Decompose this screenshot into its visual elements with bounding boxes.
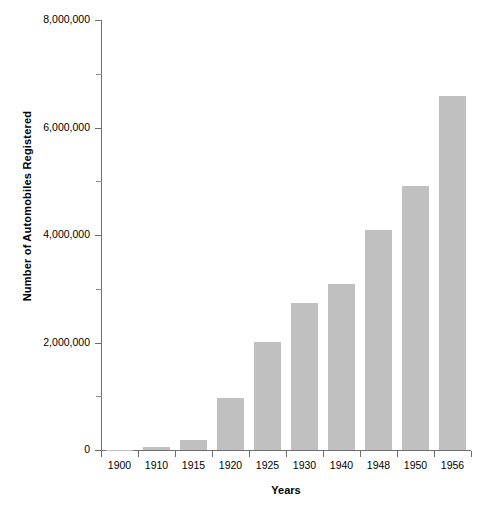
y-tick-label: 6,000,000 <box>4 121 90 133</box>
bar <box>439 96 466 450</box>
y-tick-label: 2,000,000 <box>4 336 90 348</box>
x-tick-label: 1925 <box>249 459 286 471</box>
y-tick-label: 8,000,000 <box>4 13 90 25</box>
y-tick-major <box>95 128 102 129</box>
x-tick <box>397 451 398 457</box>
x-tick <box>360 451 361 457</box>
y-tick-label: 4,000,000 <box>4 228 90 240</box>
bar <box>217 398 244 450</box>
x-tick-label: 1950 <box>397 459 434 471</box>
x-tick <box>471 451 472 457</box>
bar <box>328 284 355 450</box>
x-tick-label: 1956 <box>434 459 471 471</box>
bar <box>180 440 207 450</box>
y-tick-minor <box>96 74 102 75</box>
x-axis-title: Years <box>101 484 471 496</box>
y-tick-label: 0 <box>4 443 90 455</box>
y-tick-minor <box>96 181 102 182</box>
bar <box>291 303 318 450</box>
x-tick-label: 1940 <box>323 459 360 471</box>
y-tick-minor <box>96 289 102 290</box>
bar-chart: Number of Automobiles Registered 02,000,… <box>0 0 490 516</box>
x-tick-label: 1920 <box>212 459 249 471</box>
y-tick-minor <box>96 396 102 397</box>
x-tick <box>138 451 139 457</box>
bar <box>402 186 429 450</box>
y-tick-major <box>95 343 102 344</box>
y-tick-major <box>95 20 102 21</box>
x-tick-label: 1930 <box>286 459 323 471</box>
x-tick-label: 1948 <box>360 459 397 471</box>
bar <box>254 342 281 450</box>
x-tick-label: 1900 <box>101 459 138 471</box>
x-tick-label: 1915 <box>175 459 212 471</box>
x-tick <box>323 451 324 457</box>
bar <box>365 230 392 450</box>
bar <box>143 447 170 450</box>
y-tick-major <box>95 235 102 236</box>
x-tick <box>249 451 250 457</box>
x-tick <box>286 451 287 457</box>
plot-area: 02,000,0004,000,0006,000,0008,000,000190… <box>0 0 490 516</box>
x-tick <box>434 451 435 457</box>
x-tick <box>101 451 102 457</box>
x-tick <box>212 451 213 457</box>
x-tick-label: 1910 <box>138 459 175 471</box>
x-tick <box>175 451 176 457</box>
